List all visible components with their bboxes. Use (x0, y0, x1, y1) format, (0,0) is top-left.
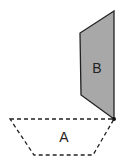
label-b: B (92, 60, 101, 76)
label-a: A (59, 129, 69, 145)
diagram-canvas: B A (0, 0, 125, 167)
pivot-point (112, 117, 116, 121)
